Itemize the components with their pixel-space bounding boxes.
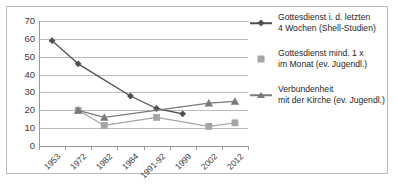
x-axis-tick-mark: [222, 146, 223, 150]
chart-figure: 010203040506070 19531972198219841991-921…: [0, 0, 396, 193]
x-axis-tick-label: 2002: [199, 152, 218, 171]
data-point-marker: [232, 119, 239, 126]
x-axis-tick-label: 1953: [43, 152, 62, 171]
legend-entry-verbundenheit: Verbundenheit mit der Kirche (ev. Jugend…: [250, 84, 382, 107]
x-axis-tick-label: 1972: [69, 152, 88, 171]
x-axis-tick-mark: [65, 146, 66, 150]
series-line-segment: [104, 117, 156, 125]
legend-label-gottesdienst-4-wochen: Gottesdienst i. d. letzten 4 Wochen (She…: [278, 12, 376, 35]
series-line-segment: [209, 101, 235, 103]
x-axis-tick-mark: [144, 146, 145, 150]
legend-marker-square-icon: [250, 53, 272, 65]
x-axis-tick-mark: [248, 146, 249, 150]
x-axis-tick-label: 1982: [95, 152, 114, 171]
y-axis-tick-label: 30: [24, 88, 35, 98]
x-axis-tick-mark: [196, 146, 197, 150]
x-axis-tick-label: 1999: [173, 152, 192, 171]
data-point-marker: [179, 110, 186, 117]
series-line-segment: [157, 117, 209, 126]
series-line-segment: [52, 41, 78, 64]
y-axis-tick-label: 20: [24, 106, 35, 116]
data-point-marker: [205, 123, 212, 130]
legend-label-gottesdienst-monat: Gottesdienst mind. 1 x im Monat (ev. Jug…: [278, 48, 367, 71]
series-plot: [39, 21, 248, 146]
y-axis-tick-label: 10: [24, 123, 35, 133]
x-axis-tick-mark: [39, 146, 40, 150]
plot-area: 010203040506070 19531972198219841991-921…: [39, 21, 248, 146]
series-line-segment: [78, 64, 130, 96]
data-point-marker: [101, 122, 108, 129]
y-axis-tick-label: 40: [24, 70, 35, 80]
y-axis-tick-label: 70: [24, 16, 35, 26]
x-axis-tick-label: 1991-92: [138, 152, 166, 180]
y-axis-tick-label: 50: [24, 52, 35, 62]
data-point-marker: [153, 114, 160, 121]
series-0: [49, 37, 186, 117]
data-point-marker: [127, 93, 134, 100]
x-axis-tick-mark: [117, 146, 118, 150]
x-axis-tick-mark: [170, 146, 171, 150]
x-axis-tick-mark: [91, 146, 92, 150]
series-line-segment: [78, 110, 104, 125]
chart-legend: Gottesdienst i. d. letzten 4 Wochen (She…: [250, 12, 382, 120]
legend-marker-diamond-icon: [250, 17, 272, 29]
series-line-segment: [130, 96, 156, 109]
legend-entry-gottesdienst-monat: Gottesdienst mind. 1 x im Monat (ev. Jug…: [250, 48, 382, 71]
legend-entry-gottesdienst-4-wochen: Gottesdienst i. d. letzten 4 Wochen (She…: [250, 12, 382, 35]
y-axis-tick-label: 0: [30, 141, 35, 151]
legend-label-verbundenheit: Verbundenheit mit der Kirche (ev. Jugend…: [278, 84, 385, 107]
series-line-segment: [78, 110, 104, 117]
legend-marker-triangle-icon: [250, 89, 272, 101]
series-line-segment: [209, 123, 235, 127]
x-axis-tick-label: 1984: [121, 152, 140, 171]
y-axis-tick-label: 60: [24, 34, 35, 44]
x-axis-tick-label: 2012: [226, 152, 245, 171]
